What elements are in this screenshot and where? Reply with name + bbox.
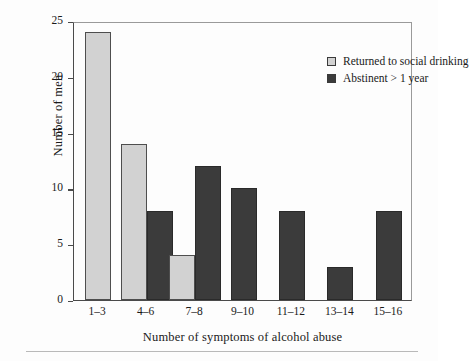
y-axis-tick-label: 15 xyxy=(52,126,64,138)
bar xyxy=(195,166,221,300)
plot-area: Returned to social drinking Abstinent > … xyxy=(73,22,412,301)
bar xyxy=(279,211,305,300)
bar xyxy=(85,32,111,300)
footer-rule xyxy=(26,351,418,352)
y-axis-tick-label: 0 xyxy=(57,293,63,305)
y-axis-tick-label: 25 xyxy=(52,14,64,26)
legend-swatch-returned-icon xyxy=(327,57,336,66)
legend-item: Returned to social drinking xyxy=(327,56,469,68)
legend-label-returned: Returned to social drinking xyxy=(343,56,469,68)
legend-swatch-abstinent-icon xyxy=(327,74,336,83)
legend-item: Abstinent > 1 year xyxy=(327,73,469,85)
bar xyxy=(169,255,195,300)
legend-label-abstinent: Abstinent > 1 year xyxy=(343,73,428,85)
bar xyxy=(327,267,353,300)
y-axis-tick-label: 5 xyxy=(57,237,63,249)
y-axis-title: Number of men xyxy=(51,36,66,196)
x-axis-title: Number of symptoms of alcohol abuse xyxy=(73,330,412,345)
bar xyxy=(231,188,257,300)
y-axis-tick-label: 20 xyxy=(52,70,64,82)
bar xyxy=(376,211,402,300)
legend: Returned to social drinking Abstinent > … xyxy=(327,56,469,89)
x-axis-tick-label: 15–16 xyxy=(358,305,418,317)
bar xyxy=(121,144,147,300)
y-axis-tick-mark xyxy=(68,301,73,302)
y-axis-tick-label: 10 xyxy=(52,181,64,193)
